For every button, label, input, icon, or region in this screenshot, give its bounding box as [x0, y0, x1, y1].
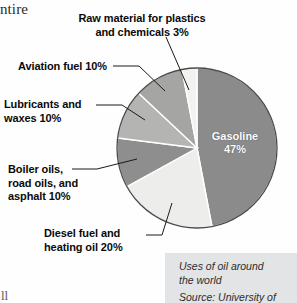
- caption-source: Source: University of: [179, 290, 297, 303]
- slice-label-gasoline: Gasoline 47%: [204, 130, 266, 156]
- chart-caption-box: Uses of oil around the world Source: Uni…: [165, 253, 297, 303]
- slice-label-aviation-fuel: Aviation fuel 10%: [18, 60, 107, 74]
- slice-label-raw-material-plastics: Raw material for plastics and chemicals …: [74, 12, 210, 39]
- caption-title-line-1: Uses of oil around: [179, 259, 297, 273]
- slice-label-lubricants-waxes: Lubricants and waxes 10%: [4, 98, 81, 125]
- slice-label-diesel-heating-oil: Diesel fuel and heating oil 20%: [44, 227, 123, 254]
- body-text-fragment-bottom: ll: [1, 288, 8, 303]
- page-canvas: ntire Raw material for plastics: [0, 0, 297, 303]
- slice-label-boiler-road-asphalt: Boiler oils, road oils, and asphalt 10%: [8, 163, 78, 204]
- caption-title-line-2: the world: [179, 273, 297, 287]
